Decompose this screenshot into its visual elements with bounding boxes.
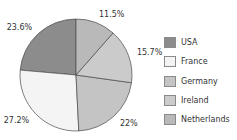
legend: USA France Germany Ireland Netherlands	[164, 33, 230, 129]
slice-label-ireland: 15.7%	[137, 48, 163, 57]
slice-label-france: 27.2%	[4, 116, 30, 125]
slice-label-usa: 23.6%	[7, 23, 33, 32]
legend-label: Netherlands	[181, 115, 230, 124]
pie-slices	[20, 19, 132, 131]
legend-swatch	[164, 95, 176, 106]
legend-item-germany: Germany	[164, 72, 230, 91]
legend-label: Ireland	[181, 96, 209, 105]
legend-swatch	[164, 76, 176, 87]
legend-label: France	[181, 57, 208, 66]
legend-swatch	[164, 37, 176, 48]
legend-item-usa: USA	[164, 33, 230, 52]
legend-item-netherlands: Netherlands	[164, 110, 230, 129]
legend-item-france: France	[164, 52, 230, 71]
legend-item-ireland: Ireland	[164, 91, 230, 110]
legend-swatch	[164, 114, 176, 125]
slice-label-germany: 22%	[120, 119, 138, 128]
legend-label: USA	[181, 38, 198, 47]
slice-label-netherlands: 11.5%	[99, 10, 125, 19]
legend-swatch	[164, 56, 176, 67]
legend-label: Germany	[181, 77, 218, 86]
